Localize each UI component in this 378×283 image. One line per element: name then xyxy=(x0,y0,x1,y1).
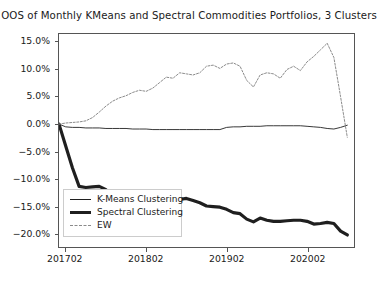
x-axis-tick-mark xyxy=(146,248,147,252)
legend-line-spectral-icon xyxy=(69,208,92,218)
x-axis-tick-label: 201902 xyxy=(192,253,262,264)
x-axis-tick-label: 201802 xyxy=(111,253,181,264)
legend-line-kmeans-icon xyxy=(69,195,92,205)
y-axis-tick-label: −20.0% xyxy=(2,228,50,239)
line-ew xyxy=(59,43,347,137)
y-axis-tick-label: −5.0% xyxy=(2,146,50,157)
legend-label-spectral: Spectral Clustering xyxy=(97,207,183,218)
legend-item-spectral: Spectral Clustering xyxy=(69,206,176,219)
y-axis-tick-label: −15.0% xyxy=(2,201,50,212)
x-axis-tick-mark xyxy=(65,248,66,252)
chart-legend: K-Means Clustering Spectral Clustering E… xyxy=(63,189,182,237)
y-axis-tick-label: −10.0% xyxy=(2,173,50,184)
legend-label-ew: EW xyxy=(97,220,112,231)
y-axis-tick-label: 0.0% xyxy=(2,118,50,129)
legend-item-ew: EW xyxy=(69,219,176,232)
legend-label-kmeans: K-Means Clustering xyxy=(97,194,183,205)
chart-figure: OOS of Monthly KMeans and Spectral Commo… xyxy=(0,0,378,283)
x-axis-tick-label: 201702 xyxy=(30,253,100,264)
legend-item-kmeans: K-Means Clustering xyxy=(69,193,176,206)
y-axis-tick-label: 10.0% xyxy=(2,63,50,74)
chart-title: OOS of Monthly KMeans and Spectral Commo… xyxy=(0,10,378,21)
x-axis-tick-label: 202002 xyxy=(273,253,343,264)
x-axis-tick-mark xyxy=(308,248,309,252)
legend-line-ew-icon xyxy=(69,221,92,231)
line-kmeans-clustering xyxy=(59,124,347,129)
x-axis-tick-mark xyxy=(227,248,228,252)
y-axis-tick-label: 5.0% xyxy=(2,90,50,101)
y-axis-tick-label: 15.0% xyxy=(2,35,50,46)
